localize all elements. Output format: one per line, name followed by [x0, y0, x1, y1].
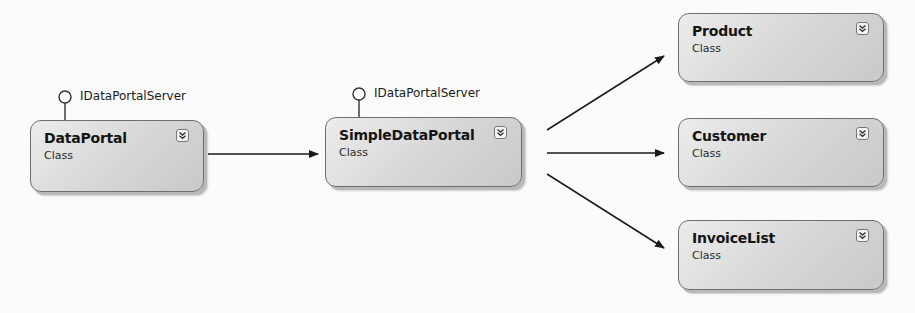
double-chevron-down-icon [858, 231, 867, 240]
class-name: InvoiceList [692, 230, 775, 246]
expand-toggle-button[interactable] [176, 129, 189, 142]
expand-toggle-button[interactable] [856, 22, 869, 35]
class-shape-simpledataportal[interactable]: SimpleDataPortal Class [325, 117, 522, 187]
expand-toggle-button[interactable] [856, 127, 869, 140]
class-kind: Class [692, 42, 721, 55]
class-kind: Class [44, 149, 73, 162]
interface-label-simpledataportal: IDataPortalServer [374, 86, 480, 100]
class-shape-product[interactable]: Product Class [678, 13, 884, 82]
expand-toggle-button[interactable] [856, 229, 869, 242]
interface-circle-icon [59, 91, 71, 103]
class-kind: Class [692, 147, 721, 160]
double-chevron-down-icon [858, 24, 867, 33]
class-shape-invoicelist[interactable]: InvoiceList Class [678, 220, 884, 290]
double-chevron-down-icon [858, 129, 867, 138]
interface-lollipop-dataportal [59, 91, 71, 120]
class-name: DataPortal [44, 130, 127, 146]
class-name: SimpleDataPortal [339, 127, 475, 143]
class-kind: Class [692, 249, 721, 262]
interface-lollipop-simpledataportal [353, 88, 365, 117]
class-kind: Class [339, 146, 368, 159]
double-chevron-down-icon [178, 131, 187, 140]
class-name: Customer [692, 128, 766, 144]
double-chevron-down-icon [496, 128, 505, 137]
class-shape-dataportal[interactable]: DataPortal Class [30, 120, 204, 192]
class-name: Product [692, 23, 752, 39]
class-shape-customer[interactable]: Customer Class [678, 118, 884, 187]
interface-label-dataportal: IDataPortalServer [80, 89, 186, 103]
interface-circle-icon [353, 88, 365, 100]
expand-toggle-button[interactable] [494, 126, 507, 139]
association-simpledataportal-to-product[interactable] [547, 56, 664, 130]
association-simpledataportal-to-invoicelist[interactable] [547, 174, 664, 248]
class-diagram-canvas: IDataPortalServer IDataPortalServer Data… [0, 0, 915, 313]
